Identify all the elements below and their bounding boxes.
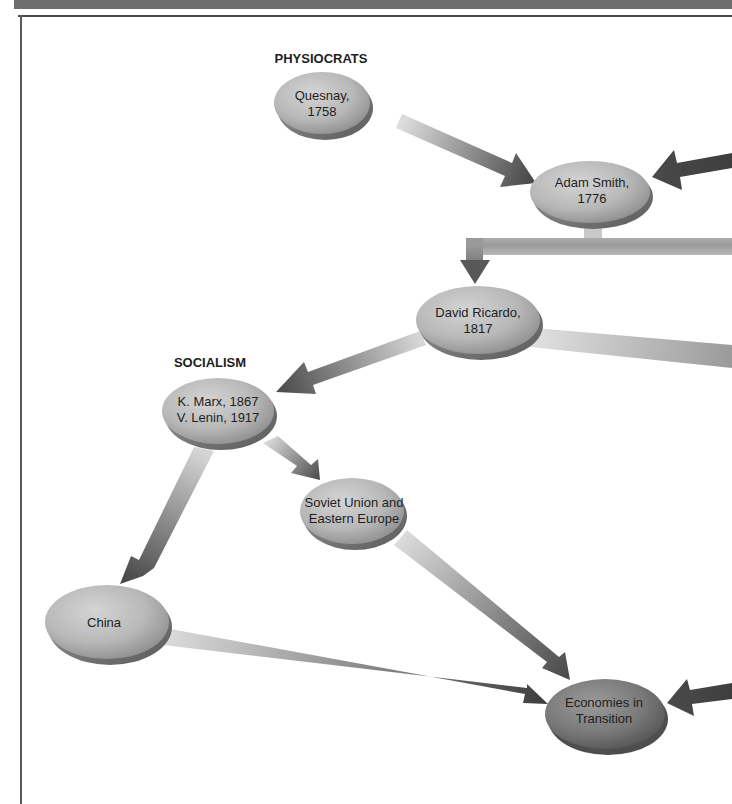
- node-china: China: [45, 585, 172, 665]
- node-ricardo-line2: 1817: [464, 321, 493, 336]
- node-quesnay: Quesnay, 1758: [274, 72, 373, 140]
- node-ricardo: David Ricardo, 1817: [416, 286, 543, 360]
- arrow-quesnay-to-smith: [396, 114, 536, 187]
- node-adam-smith-line2: 1776: [578, 191, 607, 206]
- section-label-physiocrats: PHYSIOCRATS: [275, 51, 368, 66]
- node-adam-smith: Adam Smith, 1776: [530, 161, 653, 229]
- node-quesnay-line2: 1758: [308, 104, 337, 119]
- node-soviet-union: Soviet Union and Eastern Europe: [300, 478, 407, 550]
- node-marx-lenin-line1: K. Marx, 1867: [178, 394, 259, 409]
- arrow-ricardo-to-right: [530, 328, 732, 368]
- arrow-china-to-transition: [163, 628, 548, 704]
- node-marx-lenin-line2: V. Lenin, 1917: [177, 410, 260, 425]
- node-transition-line1: Economies in: [565, 695, 643, 710]
- arrow-smith-to-ricardo: [460, 222, 732, 284]
- arrow-right-to-smith: [652, 150, 732, 190]
- node-soviet-line1: Soviet Union and: [304, 495, 403, 510]
- arrow-marx-to-soviet: [263, 436, 320, 480]
- node-economies-in-transition: Economies in Transition: [545, 679, 668, 755]
- arrow-marx-to-china: [120, 447, 214, 584]
- arrow-right-to-transition: [667, 679, 732, 716]
- section-label-socialism: SOCIALISM: [174, 355, 246, 370]
- arrow-ricardo-to-marx: [276, 331, 426, 394]
- node-marx-lenin: K. Marx, 1867 V. Lenin, 1917: [162, 378, 277, 450]
- node-china-label: China: [87, 615, 122, 630]
- node-quesnay-line1: Quesnay,: [295, 88, 350, 103]
- node-adam-smith-line1: Adam Smith,: [555, 175, 629, 190]
- node-soviet-line2: Eastern Europe: [309, 511, 399, 526]
- node-ricardo-line1: David Ricardo,: [435, 305, 520, 320]
- arrow-soviet-to-transition: [394, 530, 570, 680]
- node-transition-line2: Transition: [576, 711, 633, 726]
- economic-thought-diagram: PHYSIOCRATS SOCIALISM Quesnay, 1758 Adam…: [0, 0, 732, 804]
